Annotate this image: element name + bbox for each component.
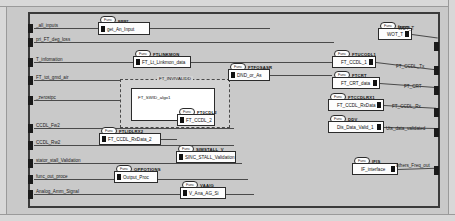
input-port[interactable] — [28, 159, 33, 168]
output-port-label: WOT_T — [398, 26, 414, 32]
block-dis-data-valid-1[interactable]: Dis_Data_Valid_1 — [328, 121, 384, 133]
output-port-label: Uts_data_validated — [386, 126, 425, 132]
input-port[interactable] — [28, 76, 33, 85]
output-port[interactable] — [434, 108, 439, 117]
output-port[interactable] — [434, 66, 439, 75]
block-inport[interactable] — [231, 72, 235, 78]
block-outport[interactable] — [377, 124, 381, 130]
output-port-label: FT_CCDL_Rx — [392, 104, 421, 110]
block-inport[interactable] — [183, 190, 187, 196]
right-scrollbar[interactable] — [448, 0, 455, 221]
block-name: SINC_STALL_Validation — [185, 155, 235, 160]
block-ft-crt-data[interactable]: FT_CRT_data — [332, 77, 380, 89]
bottom-scrollbar[interactable] — [0, 214, 455, 221]
block-inport[interactable] — [136, 59, 140, 65]
output-port-label: others_Freq_out — [396, 163, 430, 169]
block-inport[interactable] — [102, 136, 106, 142]
block-dnd-or-as[interactable]: DND_or_As — [228, 69, 270, 81]
subsystem-label: FT_INVIVALIDD — [157, 76, 193, 81]
block-name: V_Ana_AG_Si — [189, 191, 219, 196]
block-get-an-input[interactable]: get_An_Input — [98, 22, 150, 35]
block-sinc-stall-validation[interactable]: SINC_STALL_Validation — [176, 151, 236, 163]
input-port[interactable] — [28, 96, 33, 105]
input-port[interactable] — [28, 190, 33, 199]
input-port[interactable] — [28, 175, 33, 184]
block-ft-ccdl-rxdata[interactable]: FT_CCDL_RxData — [328, 99, 384, 111]
block-ft-ccdl-1[interactable]: FT_CCDL_1 — [332, 56, 376, 68]
block-name: WOT_T — [387, 32, 403, 37]
connector-wire — [270, 75, 332, 76]
output-port-label: FT_CCDL_Tx — [396, 64, 424, 70]
block-name: FT_CCDL_RxData_2 — [108, 137, 152, 142]
block-v-ana-ag-si[interactable]: V_Ana_AG_Si — [180, 187, 226, 199]
block-ft-ccdl-2[interactable]: FT_CCDL_2 — [177, 114, 215, 126]
output-port[interactable] — [434, 128, 439, 137]
input-port[interactable] — [28, 38, 33, 47]
block-inport[interactable] — [180, 117, 184, 123]
block-inport[interactable] — [101, 26, 105, 32]
block-inport[interactable] — [179, 154, 183, 160]
input-port[interactable] — [28, 24, 33, 33]
block-outport[interactable] — [369, 59, 373, 65]
input-port[interactable] — [28, 58, 33, 67]
block-inport[interactable] — [117, 174, 121, 180]
left-edge — [0, 0, 7, 221]
block-name: FT_Lt_Linkmon_data — [142, 60, 185, 65]
input-port[interactable] — [28, 141, 33, 150]
diagram-canvas: FT _all_inputs pri_FT_deg_loss T_infomat… — [0, 0, 455, 221]
block-name: Dis_Data_Valid_1 — [337, 125, 373, 130]
block-output-proc[interactable]: Output_Proc — [114, 171, 158, 183]
output-port[interactable] — [434, 166, 439, 175]
block-name: FT_CCDL_1 — [341, 60, 367, 65]
block-name: FT_CRT_data — [341, 81, 370, 86]
output-port-label: FT_CRT — [404, 84, 422, 90]
block-name: FT_SWID_algo1 — [138, 95, 170, 100]
block-ft-lt-linkmon-data[interactable]: FT_Lt_Linkmon_data — [133, 56, 191, 68]
connector-wire — [161, 139, 177, 140]
block-ft-ccdl-rxdata-2[interactable]: FT_CCDL_RxData_2 — [99, 133, 161, 145]
block-if-interface[interactable]: IF_interface — [352, 163, 398, 175]
block-outport[interactable] — [373, 80, 377, 86]
connector-wire — [191, 62, 229, 63]
block-name: DND_or_As — [237, 73, 262, 78]
output-port[interactable] — [434, 86, 439, 95]
block-name: get_An_Input — [107, 26, 134, 31]
block-name: FT_CCDL_2 — [186, 118, 212, 123]
output-port[interactable] — [434, 42, 439, 51]
block-outport[interactable] — [377, 102, 381, 108]
top-edge — [0, 0, 455, 7]
connector-wire — [150, 28, 270, 29]
input-port[interactable] — [28, 124, 33, 133]
block-name: IF_interface — [361, 167, 385, 172]
block-name: Output_Proc — [123, 175, 149, 180]
block-outport[interactable] — [391, 166, 395, 172]
block-name: FT_CCDL_RxData — [337, 103, 376, 108]
